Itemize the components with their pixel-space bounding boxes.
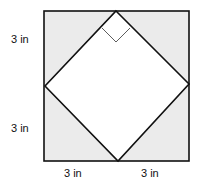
label-left-bottom: 3 in: [11, 122, 29, 134]
label-bottom-right: 3 in: [141, 167, 159, 179]
label-left-top: 3 in: [11, 33, 29, 45]
label-bottom-left: 3 in: [64, 167, 82, 179]
diagram-canvas: [0, 0, 198, 184]
